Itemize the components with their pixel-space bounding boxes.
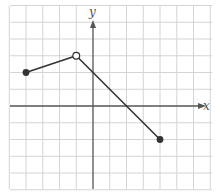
- y-axis-label: y: [88, 5, 96, 19]
- function-graph: x y: [0, 0, 222, 194]
- y-axis-arrow-icon: [90, 20, 96, 28]
- open-point: [73, 52, 80, 59]
- segment-2: [76, 56, 160, 140]
- x-axis-label: x: [203, 99, 210, 113]
- grid-lines: [9, 6, 212, 190]
- closed-point: [23, 69, 30, 76]
- segment-1: [26, 56, 76, 73]
- closed-point: [157, 136, 164, 143]
